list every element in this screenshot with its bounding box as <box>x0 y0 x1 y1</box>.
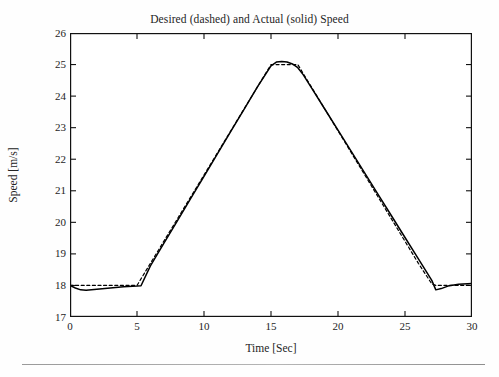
y-tick-label: 22 <box>32 154 66 165</box>
y-tick-label: 20 <box>32 217 66 228</box>
x-tick-label: 10 <box>184 321 224 332</box>
figure-canvas: Desired (dashed) and Actual (solid) Spee… <box>0 0 499 377</box>
y-tick-label: 19 <box>32 248 66 259</box>
x-axis-label: Time [Sec] <box>70 342 472 354</box>
plot-svg <box>70 33 472 317</box>
y-axis-tick-labels: 17181920212223242526 <box>28 33 66 317</box>
y-tick-label: 24 <box>32 91 66 102</box>
x-tick-label: 30 <box>452 321 492 332</box>
y-tick-label: 25 <box>32 59 66 70</box>
page-separator-rule <box>22 364 485 365</box>
chart-title: Desired (dashed) and Actual (solid) Spee… <box>0 13 499 25</box>
plot-area <box>70 33 472 317</box>
y-tick-label: 23 <box>32 122 66 133</box>
y-axis-label: Speed [m/s] <box>7 147 19 202</box>
y-tick-label: 21 <box>32 185 66 196</box>
y-axis-label-container: Speed [m/s] <box>0 33 26 317</box>
x-tick-label: 5 <box>117 321 157 332</box>
x-tick-label: 15 <box>251 321 291 332</box>
y-tick-label: 26 <box>32 28 66 39</box>
x-tick-label: 20 <box>318 321 358 332</box>
x-tick-label: 25 <box>385 321 425 332</box>
x-tick-label: 0 <box>50 321 90 332</box>
x-axis-tick-labels: 051015202530 <box>70 321 472 337</box>
y-tick-label: 18 <box>32 280 66 291</box>
plot-background <box>70 33 472 317</box>
